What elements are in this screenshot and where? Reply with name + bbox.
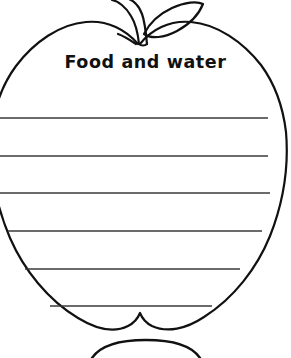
apple-body-outline [0, 22, 287, 330]
apple-stem-base-icon [139, 44, 147, 46]
worksheet-page: Food and water [0, 0, 291, 358]
apple-template-graphic [0, 0, 291, 358]
next-shape-top-edge-icon [92, 340, 200, 358]
writing-lines-group [0, 118, 270, 306]
